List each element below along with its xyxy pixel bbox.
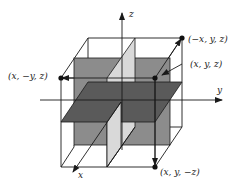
y-axis-label: y (216, 85, 223, 95)
label-point-neg-y: (x, −y, z) (8, 71, 48, 81)
label-point-xyz: (x, y, z) (190, 59, 223, 69)
label-point-neg-x: (−x, y, z) (188, 34, 228, 44)
point-xyz (152, 75, 157, 80)
z-axis-label: z (128, 9, 134, 19)
point-neg-x (179, 35, 184, 40)
point-neg-y (58, 75, 63, 80)
reflection-diagram: z y x (−x, y, z) (x, y, z) (x, −y, z) (x… (0, 0, 241, 185)
label-point-neg-z: (x, y, −z) (160, 167, 200, 177)
x-axis-label: x (78, 170, 83, 180)
point-neg-z (152, 164, 157, 169)
